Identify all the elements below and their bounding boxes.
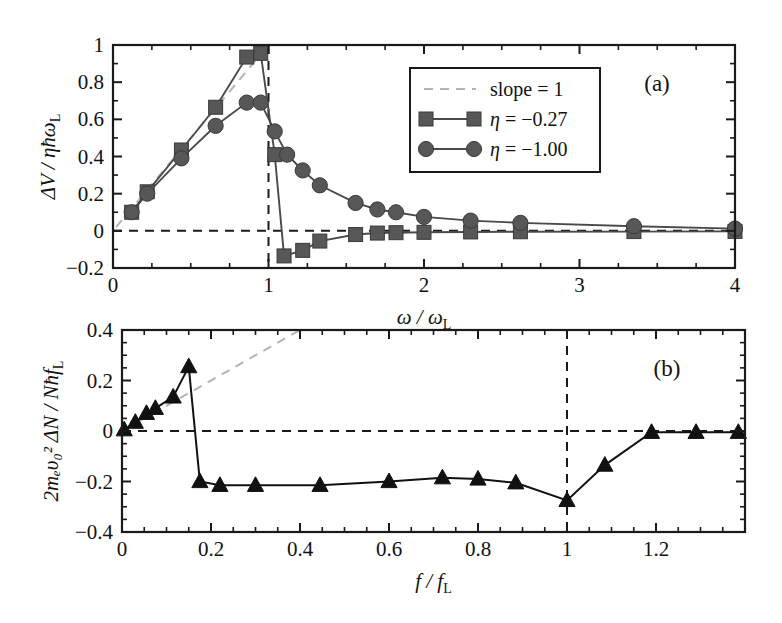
data-marker-circle [208,118,223,133]
data-marker-square [349,228,363,242]
scientific-figure: 01234−0.200.20.40.60.81ω / ωLΔV / ηħωL(a… [0,0,782,623]
xticklabel: 2 [419,273,430,297]
data-marker-square [417,225,431,239]
data-marker-circle [174,151,189,166]
data-marker-circle [253,95,268,110]
data-marker-circle [348,195,363,210]
data-marker-circle [312,178,327,193]
data-marker-circle [416,209,431,224]
xticklabel: 1 [562,537,573,561]
yticklabel: 0.2 [87,369,113,393]
yticklabel: 0 [103,419,114,443]
data-marker-circle [626,219,641,234]
data-marker-circle [140,186,155,201]
data-marker-square [467,112,481,126]
yaxis-title-b: 2mₑυ₀² ΔN / NħfL [39,361,66,502]
figure-container: 01234−0.200.20.40.60.81ω / ωLΔV / ηħωL(a… [0,0,782,623]
yticklabel: −0.4 [75,520,114,544]
data-marker-square [389,226,403,240]
legend-label: η = −1.00 [490,138,567,161]
data-marker-circle [418,141,433,156]
data-marker-square [370,226,384,240]
yticklabel: −0.2 [66,256,104,280]
yticklabel: 0.2 [78,182,104,206]
data-marker-circle [267,124,282,139]
data-marker-square [240,50,254,64]
data-marker-circle [370,202,385,217]
yticklabel: 0.4 [78,145,105,169]
yticklabel: 0.6 [78,107,104,131]
xticklabel: 3 [574,273,585,297]
xticklabel: 0 [108,273,119,297]
data-marker-square [419,112,433,126]
xticklabel: 0 [117,537,128,561]
panel-label-a: (a) [644,71,670,96]
xticklabel: 1 [263,273,274,297]
data-marker-square [296,243,310,257]
data-marker-square [277,249,291,263]
xticklabel: 1.2 [643,537,669,561]
panel-label-b: (b) [654,356,681,381]
data-marker-square [313,234,327,248]
data-marker-circle [466,141,481,156]
data-marker-circle [463,213,478,228]
data-marker-circle [280,147,295,162]
data-marker-circle [239,95,254,110]
data-marker-square [254,46,268,60]
data-marker-circle [295,163,310,178]
legend-label: slope = 1 [490,78,564,101]
data-marker-circle [124,205,139,220]
xticklabel: 0.2 [198,537,224,561]
data-marker-circle [388,205,403,220]
yticklabel: 0.4 [87,318,114,342]
xticklabel: 4 [730,273,741,297]
xticklabel: 0.8 [465,537,491,561]
yaxis-title-a: ΔV / ηħωL [36,114,63,200]
yticklabel: 1 [94,33,105,57]
xticklabel: 0.6 [376,537,402,561]
legend-label: η = −0.27 [490,108,567,131]
yticklabel: 0 [94,219,105,243]
data-marker-square [209,100,223,114]
yticklabel: 0.8 [78,70,104,94]
data-marker-circle [513,215,528,230]
yticklabel: −0.2 [75,470,113,494]
xticklabel: 0.4 [287,537,314,561]
